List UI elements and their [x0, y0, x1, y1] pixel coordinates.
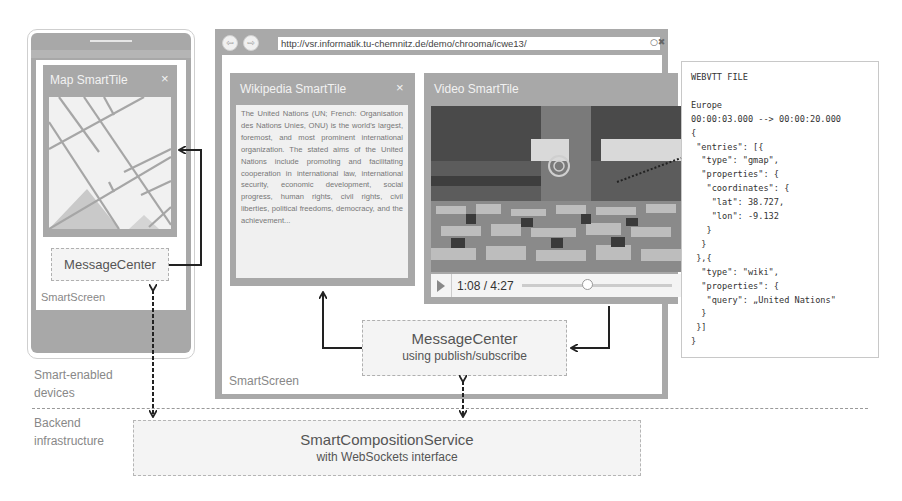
connector-arrows: [0, 0, 902, 501]
